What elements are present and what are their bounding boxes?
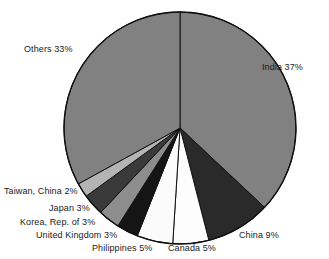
slice-label-others: Others 33%	[24, 44, 73, 55]
slice-label-canada: Canada 5%	[168, 243, 216, 254]
pie-chart-figure: India 37% China 9% Canada 5% Philippines…	[0, 0, 329, 259]
slice-label-japan: Japan 3%	[49, 203, 90, 214]
slice-label-korea: Korea, Rep. of 3%	[20, 217, 95, 228]
slice-label-united-kingdom: United Kingdom 3%	[36, 230, 117, 241]
slice-label-taiwan: Taiwan, China 2%	[4, 186, 78, 197]
pie-slices-group	[64, 12, 296, 244]
slice-label-india: India 37%	[262, 62, 303, 73]
footnote-text	[2, 250, 122, 259]
slice-label-china: China 9%	[239, 230, 279, 241]
